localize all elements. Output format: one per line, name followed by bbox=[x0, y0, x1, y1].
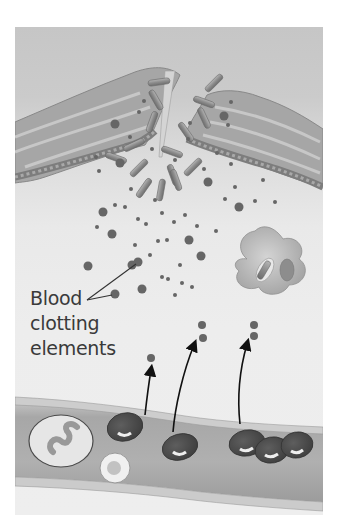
label-leader-lines bbox=[87, 264, 136, 300]
label-elements: elements bbox=[30, 336, 116, 360]
label-blood: Blood bbox=[30, 286, 82, 310]
illustration-panel: Blood clotting elements bbox=[15, 27, 323, 515]
wound-clotting-illustration bbox=[15, 27, 323, 515]
white-blood-cell-large bbox=[29, 415, 93, 467]
label-clotting: clotting bbox=[30, 311, 99, 335]
macrophage-cell bbox=[235, 227, 305, 294]
white-blood-cell-small bbox=[100, 453, 130, 483]
